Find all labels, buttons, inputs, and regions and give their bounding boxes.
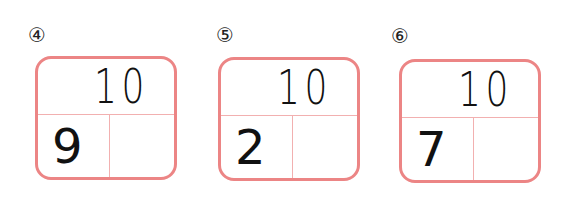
number-bond-box: 10 9 bbox=[35, 56, 177, 180]
number-bond-box: 10 2 bbox=[218, 57, 360, 181]
number-bond-box: 10 7 bbox=[399, 59, 541, 183]
problem-number: ⑥ bbox=[391, 26, 409, 46]
total-cell: 10 bbox=[38, 59, 174, 115]
total-cell: 10 bbox=[402, 62, 538, 118]
answer-cell[interactable] bbox=[474, 118, 538, 180]
known-part: 2 bbox=[235, 118, 266, 176]
total-value: 10 bbox=[458, 64, 513, 114]
problem-number: ⑤ bbox=[216, 25, 234, 45]
total-value: 10 bbox=[277, 62, 332, 112]
total-value: 10 bbox=[94, 61, 149, 111]
known-part: 9 bbox=[52, 117, 83, 175]
total-cell: 10 bbox=[221, 60, 357, 116]
answer-cell[interactable] bbox=[110, 115, 174, 177]
known-part: 7 bbox=[416, 120, 447, 178]
problem-number: ④ bbox=[28, 25, 46, 45]
answer-cell[interactable] bbox=[293, 116, 357, 178]
